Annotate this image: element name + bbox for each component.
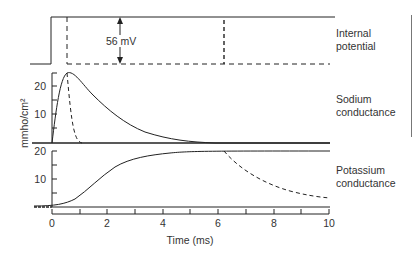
arrow-up-head-icon [117, 17, 123, 24]
y-axis-label: mmho/cm² [18, 98, 30, 148]
sodium-ytick-20: 20 [34, 80, 46, 92]
sodium-repolarized-curve [67, 73, 82, 143]
sodium-label-1: Sodium [336, 93, 372, 105]
xtick-6: 6 [215, 217, 221, 229]
x-axis [52, 209, 329, 214]
xtick-4: 4 [160, 217, 166, 229]
xtick-2: 2 [104, 217, 110, 229]
potassium-panel [34, 151, 330, 207]
amplitude-annotation: 56 mV [106, 35, 136, 47]
potassium-conductance-curve [34, 151, 330, 206]
xtick-10: 10 [323, 217, 335, 229]
xtick-8: 8 [271, 217, 277, 229]
potassium-ytick-10: 10 [34, 173, 46, 185]
potassium-repolarized-curve [224, 151, 330, 198]
arrow-down-head-icon [117, 57, 123, 64]
internal-potential-label-2: potential [336, 40, 376, 52]
potassium-label-2: conductance [336, 177, 396, 189]
x-axis-label: Time (ms) [167, 234, 214, 246]
sodium-conductance-curve [52, 73, 330, 143]
xtick-0: 0 [49, 217, 55, 229]
internal-potential-panel [30, 17, 335, 64]
internal-potential-label-1: Internal [336, 27, 371, 39]
sodium-label-2: conductance [336, 106, 396, 118]
potassium-ytick-20: 20 [34, 145, 46, 157]
hodgkin-huxley-figure: 56 mV Internal potential 20 10 Sodium co… [0, 0, 413, 259]
sodium-panel [32, 73, 330, 143]
sodium-ytick-10: 10 [34, 108, 46, 120]
potassium-label-1: Potassium [336, 164, 385, 176]
